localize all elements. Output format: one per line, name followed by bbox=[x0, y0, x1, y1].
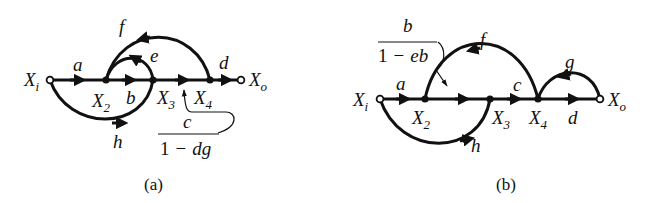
gain-c: c bbox=[513, 74, 522, 95]
label-x4: X4 bbox=[528, 107, 548, 132]
gain-e: e bbox=[150, 45, 158, 66]
gain-h: h bbox=[471, 135, 481, 156]
gain-b-denominator: 1−eb bbox=[378, 45, 428, 66]
label-x2: X2 bbox=[411, 107, 431, 132]
signal-flow-graphs: Xi X2 X3 X4 Xo a b d e f h c 1−dg (a) bbox=[0, 0, 652, 203]
node-x3 bbox=[149, 76, 156, 83]
gain-b: b bbox=[126, 87, 136, 108]
gain-a: a bbox=[73, 54, 83, 75]
gain-h: h bbox=[113, 131, 123, 152]
node-x3 bbox=[486, 95, 493, 102]
label-xo: Xo bbox=[607, 89, 627, 114]
branch-g bbox=[538, 73, 600, 99]
label-xi: Xi bbox=[23, 69, 40, 94]
gain-c-denominator: 1−dg bbox=[160, 138, 211, 159]
label-x2: X2 bbox=[91, 90, 111, 115]
label-xo: Xo bbox=[248, 69, 268, 94]
gain-c-numerator: c bbox=[183, 111, 192, 132]
gain-d: d bbox=[219, 52, 229, 73]
label-x3: X3 bbox=[156, 87, 176, 112]
node-input bbox=[47, 77, 54, 84]
label-xi: Xi bbox=[352, 89, 369, 114]
node-x2 bbox=[102, 76, 109, 83]
caption-a: (a) bbox=[144, 175, 163, 194]
gain-f: f bbox=[480, 29, 488, 50]
diagram-b: Xi X2 X3 X4 Xo a c d f g h b 1−eb (b) bbox=[352, 15, 627, 194]
gain-a: a bbox=[396, 73, 406, 94]
node-output bbox=[597, 96, 604, 103]
gain-b-numerator: b bbox=[403, 15, 413, 36]
node-input bbox=[377, 96, 384, 103]
node-x2 bbox=[421, 95, 428, 102]
diagram-a: Xi X2 X3 X4 Xo a b d e f h c 1−dg (a) bbox=[23, 16, 268, 194]
label-x3: X3 bbox=[491, 107, 511, 132]
gain-f: f bbox=[119, 16, 127, 37]
node-x4 bbox=[206, 76, 213, 83]
label-x4: X4 bbox=[193, 87, 213, 112]
gain-g: g bbox=[565, 51, 575, 72]
caption-b: (b) bbox=[496, 175, 516, 194]
node-output bbox=[238, 77, 245, 84]
gain-d: d bbox=[568, 107, 578, 128]
node-x4 bbox=[534, 95, 541, 102]
gain-pointer-b bbox=[436, 42, 447, 86]
